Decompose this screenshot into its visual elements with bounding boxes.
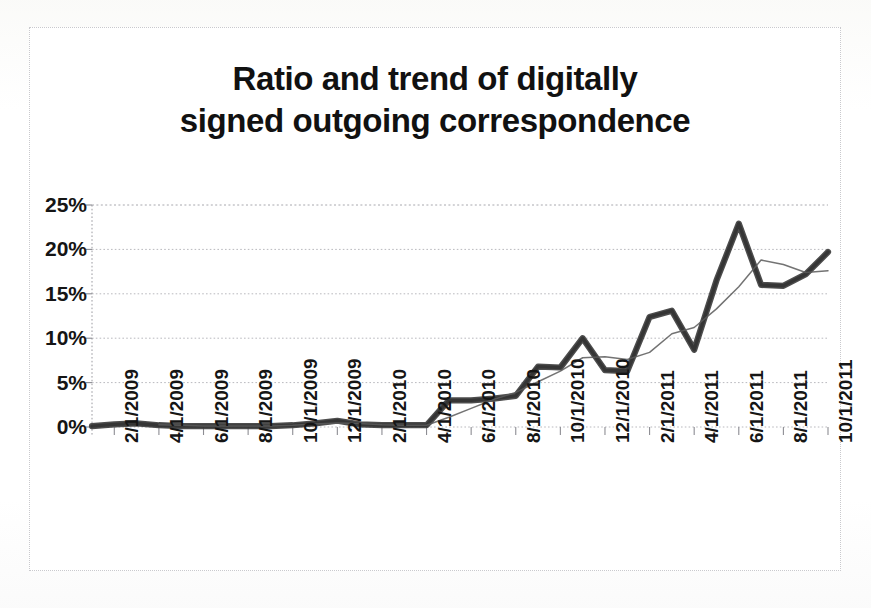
x-axis-tick-label: 8/1/2011 bbox=[790, 370, 812, 443]
x-axis-tick-label: 8/1/2009 bbox=[255, 369, 277, 443]
x-axis-tick-label: 6/1/2009 bbox=[211, 369, 233, 443]
x-axis-tick-label: 4/1/2010 bbox=[434, 369, 456, 443]
x-axis-tick-label: 12/1/2010 bbox=[612, 358, 634, 443]
x-axis-tick-label: 12/1/2009 bbox=[344, 358, 366, 443]
x-axis-tick-label: 2/1/2011 bbox=[657, 370, 679, 443]
x-axis-tick-label: 2/1/2010 bbox=[389, 369, 411, 443]
x-axis-tick-label: 6/1/2011 bbox=[746, 370, 768, 443]
x-axis-tick-label: 4/1/2009 bbox=[166, 369, 188, 443]
plot-area: 0%5%10%15%20%25% 2/1/20094/1/20096/1/200… bbox=[0, 0, 871, 608]
x-axis-tick-label: 10/1/2009 bbox=[300, 358, 322, 443]
x-axis-tick-label: 6/1/2010 bbox=[478, 369, 500, 443]
x-axis-tick-label: 10/1/2011 bbox=[835, 360, 857, 443]
x-axis-tick-label: 4/1/2011 bbox=[701, 370, 723, 443]
x-axis-labels: 2/1/20094/1/20096/1/20098/1/200910/1/200… bbox=[0, 0, 871, 608]
x-axis-tick-label: 8/1/2010 bbox=[523, 369, 545, 443]
x-axis-tick-label: 2/1/2009 bbox=[121, 369, 143, 443]
chart-figure: Ratio and trend of digitally signed outg… bbox=[0, 0, 871, 608]
x-axis-tick-label: 10/1/2010 bbox=[567, 358, 589, 443]
